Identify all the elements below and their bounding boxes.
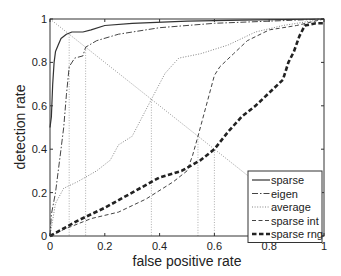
y-tick-label: 0.8 bbox=[32, 56, 47, 68]
y-tick-label: 0 bbox=[41, 230, 47, 242]
legend-label: sparse rng bbox=[271, 228, 323, 240]
roc-chart: 00.20.40.60.8100.20.40.60.81 sparseeigen… bbox=[0, 0, 341, 276]
legend: sparseeigenaveragesparse intsparse rng bbox=[248, 171, 323, 243]
y-tick-label: 0.4 bbox=[32, 143, 47, 155]
x-tick-label: 0.6 bbox=[207, 240, 222, 252]
x-tick-label: 0.4 bbox=[152, 240, 167, 252]
x-tick-label: 0.2 bbox=[97, 240, 112, 252]
legend-label: average bbox=[271, 201, 311, 213]
legend-label: sparse int bbox=[271, 215, 319, 227]
y-tick-label: 0.6 bbox=[32, 100, 47, 112]
legend-label: eigen bbox=[271, 188, 298, 200]
x-tick-label: 0 bbox=[47, 240, 53, 252]
y-axis-label: detection rate bbox=[12, 84, 28, 169]
y-tick-label: 1 bbox=[41, 13, 47, 25]
legend-label: sparse bbox=[271, 174, 304, 186]
series-sparse bbox=[50, 19, 324, 128]
x-axis-label: false positive rate bbox=[133, 253, 242, 269]
y-tick-label: 0.2 bbox=[32, 187, 47, 199]
